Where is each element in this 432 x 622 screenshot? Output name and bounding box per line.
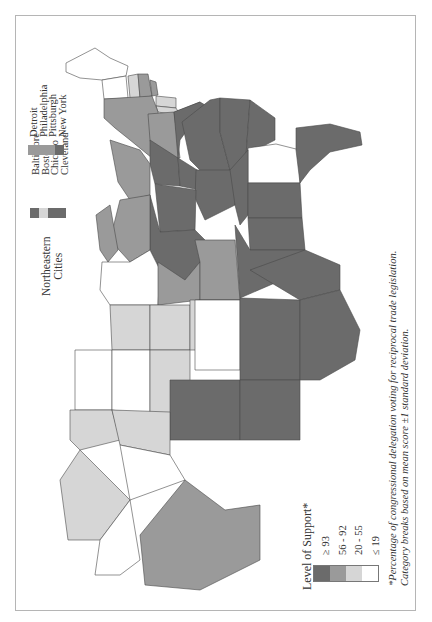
swatch-detroit: [28, 145, 37, 155]
swatch-20-55: [346, 566, 362, 581]
state-wyoming: [112, 350, 150, 415]
footnote-line1: *Percentage of congressional delegation …: [387, 251, 399, 586]
state-florida: [296, 124, 362, 183]
footnote-line2: Category breaks based on mean score ±1 s…: [399, 251, 411, 586]
state-california: [140, 480, 260, 590]
support-legend-labels: ≥ 93 56 - 92 20 - 55 ≤ 19: [318, 525, 384, 555]
state-mississippi: [248, 218, 305, 250]
swatch-ge-93: [314, 566, 330, 581]
cities-col1-swatches: [30, 208, 66, 218]
state-michigan-up: [96, 205, 118, 262]
swatch-new-york: [55, 145, 64, 155]
swatch-cleveland: [57, 208, 66, 218]
cities-column2-swatches: [28, 145, 64, 155]
support-label-ge-93: ≥ 93: [318, 525, 335, 555]
support-label-56-92: 56 - 92: [335, 525, 352, 555]
state-texas: [300, 290, 360, 380]
cities-title-line2: Cities: [52, 237, 64, 296]
state-oklahoma: [240, 298, 300, 380]
swatch-56-92: [330, 566, 346, 581]
state-missouri: [195, 240, 240, 300]
cities-title-line1: Northeastern: [40, 237, 52, 296]
swatch-chicago: [48, 208, 57, 218]
state-idaho: [70, 410, 120, 450]
state-north-dakota: [110, 305, 150, 350]
state-kansas: [195, 300, 240, 370]
state-south-dakota: [150, 305, 190, 350]
support-legend-swatches: [313, 565, 379, 582]
footnote: *Percentage of congressional delegation …: [387, 251, 411, 586]
state-georgia: [248, 144, 300, 183]
state-new-mexico: [170, 380, 240, 440]
state-indiana: [155, 184, 196, 232]
cities-legend-title: Northeastern Cities: [40, 237, 64, 296]
city-label-new-york: New York: [58, 85, 68, 138]
swatch-boston: [39, 208, 48, 218]
state-alabama: [248, 183, 302, 218]
support-label-20-55: 20 - 55: [351, 525, 368, 555]
state-maine: [66, 48, 128, 80]
support-label-le-19: ≤ 19: [368, 525, 385, 555]
state-new-hampshire: [102, 76, 128, 99]
state-montana: [75, 350, 112, 410]
swatch-le-19: [362, 566, 378, 581]
state-arizona: [240, 380, 300, 440]
states: [60, 48, 362, 590]
state-massachusetts: [138, 74, 152, 98]
swatch-philadelphia: [37, 145, 46, 155]
cities-column2-labels: Detroit Philadelphia Pittsburgh New York: [29, 85, 67, 138]
cities-legend-column1: [30, 208, 66, 218]
swatch-pittsburgh: [46, 145, 55, 155]
swatch-baltimore: [30, 208, 39, 218]
